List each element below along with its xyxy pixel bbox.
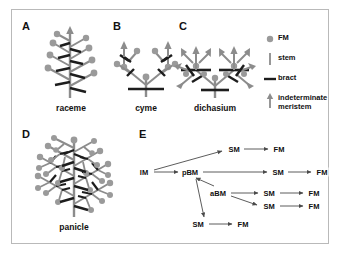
legend-label-bract: bract [278, 72, 296, 83]
legend-label-stem: stem [278, 52, 296, 63]
flow-node-fm-2: FM [316, 168, 329, 177]
legend-label-fm: FM [278, 32, 289, 43]
flow-node-fm-1: FM [273, 145, 286, 154]
flow-node-fm-4: FM [308, 202, 321, 211]
legend-item-indeterminate-meristem: indeterminate meristem [262, 92, 336, 110]
fm-circle-icon [262, 32, 278, 45]
panel-letter-a: A [22, 20, 30, 32]
flow-node-fm-3: FM [308, 189, 321, 198]
caption-dichasium: dichasium [175, 103, 255, 113]
figure-root: A [0, 0, 340, 253]
stem-line-icon [262, 52, 278, 65]
caption-raceme: raceme [31, 103, 111, 113]
legend: FM stem bract indeterminate meristem [262, 32, 336, 117]
dichasium-svg [172, 32, 258, 100]
legend-item-fm: FM [262, 32, 336, 45]
flow-node-sm-3: SM [262, 189, 275, 198]
panel-letter-c: C [179, 20, 187, 32]
flow-node-abm: aBM [209, 189, 227, 198]
panicle-diagram [22, 132, 126, 218]
flow-node-pbm: pBM [181, 168, 199, 177]
flow-node-im: IM [139, 168, 149, 177]
flow-node-sm-4: SM [262, 202, 275, 211]
caption-panicle: panicle [34, 222, 114, 232]
flow-node-sm-5: SM [191, 220, 204, 229]
raceme-svg [32, 22, 110, 100]
legend-item-stem: stem [262, 52, 336, 65]
legend-item-bract: bract [262, 72, 336, 85]
dichasium-diagram [172, 32, 258, 100]
panicle-svg [22, 132, 126, 218]
meristem-flowchart: IM pBM SM FM SM FM aBM SM FM SM FM SM FM [136, 134, 332, 230]
raceme-diagram [32, 22, 110, 100]
flow-node-sm-1: SM [227, 145, 240, 154]
caption-cyme: cyme [106, 103, 186, 113]
arrow-up-icon [262, 92, 278, 110]
flow-node-sm-2: SM [271, 168, 284, 177]
bract-line-icon [262, 72, 278, 85]
flow-node-fm-5: FM [237, 220, 250, 229]
legend-label-indeterminate-meristem: indeterminate meristem [278, 92, 336, 111]
